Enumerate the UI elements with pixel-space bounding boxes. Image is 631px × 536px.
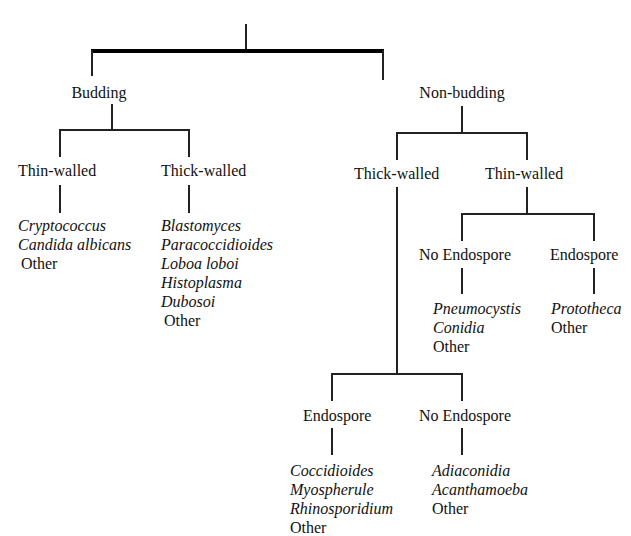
nb-thin-drop [526,132,528,160]
nb-thin-noendo-drop [461,213,463,241]
list-thick-endospore: Coccidioides Myospherule Rhinosporidium … [290,461,393,536]
organism-name: Loboa loboi [161,254,273,273]
nb-thin-endo-drop [593,213,595,241]
organism-name: Acanthamoeba [432,480,528,499]
organism-name: Prototheca [551,299,622,318]
clipped-figure-title [0,0,631,3]
budding-thick-drop [188,129,190,157]
node-budding-thin-walled: Thin-walled [18,161,96,180]
nb-thick-endo-stem [331,428,333,455]
node-non-budding: Non-budding [419,83,504,102]
nb-thin-stem [526,187,528,214]
nb-thick-drop [396,132,398,160]
nb-thick-stem [396,187,398,374]
budding-thin-stem [59,185,61,213]
organism-name: Cryptococcus [18,216,131,235]
node-nonbudding-thin-walled: Thin-walled [485,164,563,183]
root-branch-line [91,49,384,53]
other-label: Other [161,311,273,330]
organism-name: Rhinosporidium [290,499,393,518]
other-label: Other [433,337,521,356]
list-thin-endospore: Prototheca Other [551,299,622,337]
node-budding: Budding [71,83,126,102]
nonbudding-stem-line [461,106,463,133]
other-label: Other [18,254,131,273]
nb-thin-endo-stem [593,268,595,294]
nonbudding-branch-line [396,132,527,134]
nb-thick-endo-drop [331,373,333,401]
organism-name: Conidia [433,318,521,337]
organism-name: Blastomyces [161,216,273,235]
other-label: Other [551,318,622,337]
organism-name: Histoplasma [161,273,273,292]
node-thin-endospore: Endospore [550,245,618,264]
list-thick-no-endospore: Adiaconidia Acanthamoeba Other [432,461,528,518]
node-thick-endospore: Endospore [303,406,371,425]
budding-drop-line [91,50,93,76]
organism-name: Pneumocystis [433,299,521,318]
list-budding-thin-walled: Cryptococcus Candida albicans Other [18,216,131,273]
budding-thin-drop [59,129,61,157]
nb-thin-branch-line [461,213,594,215]
organism-name: Coccidioides [290,461,393,480]
node-nonbudding-thick-walled: Thick-walled [354,164,439,183]
organism-name: Myospherule [290,480,393,499]
nb-thin-noendo-stem [461,268,463,294]
organism-name: Adiaconidia [432,461,528,480]
node-thick-no-endospore: No Endospore [419,406,511,425]
organism-name: Candida albicans [18,235,131,254]
list-budding-thick-walled: Blastomyces Paracoccidioides Loboa loboi… [161,216,273,330]
other-label: Other [432,499,528,518]
root-stem-line [245,24,247,50]
nb-thick-branch-line [331,373,462,375]
nonbudding-drop-line [382,50,384,80]
node-budding-thick-walled: Thick-walled [161,161,246,180]
organism-name: Dubosoi [161,292,273,311]
budding-branch-line [59,129,189,131]
budding-stem-line [111,104,113,130]
organism-name: Paracoccidioides [161,235,273,254]
list-thin-no-endospore: Pneumocystis Conidia Other [433,299,521,356]
nb-thick-noendo-drop [461,373,463,401]
budding-thick-stem [188,185,190,213]
node-thin-no-endospore: No Endospore [419,245,511,264]
other-label: Other [290,518,393,536]
nb-thick-noendo-stem [461,428,463,455]
